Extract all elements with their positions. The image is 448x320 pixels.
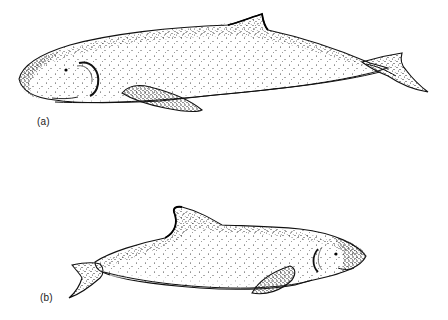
- whale-a-eye: [64, 68, 67, 71]
- whale-b-eye: [335, 253, 338, 256]
- whale-illustrations: [0, 0, 448, 320]
- panel-label-a: (a): [37, 116, 50, 127]
- figure-caption-cropped: [0, 315, 448, 320]
- whale-b-fluke: [69, 263, 103, 298]
- whale-b: [69, 207, 366, 298]
- figure: (a) (b): [0, 0, 448, 320]
- panel-label-b: (b): [40, 292, 53, 303]
- whale-a: [19, 14, 428, 111]
